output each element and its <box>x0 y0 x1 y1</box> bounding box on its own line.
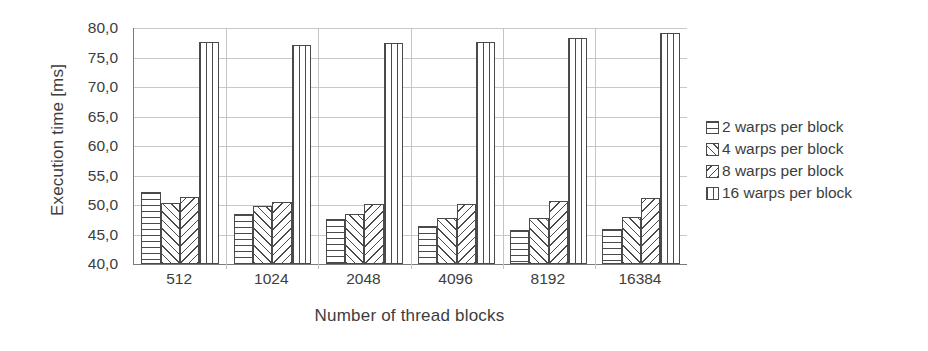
y-axis-tick-label: 80,0 <box>88 20 118 36</box>
bar[interactable] <box>602 229 621 264</box>
y-axis-tick-label: 55,0 <box>88 168 118 184</box>
bar[interactable] <box>326 219 345 264</box>
y-axis-tick-label: 75,0 <box>88 50 118 66</box>
bar-group <box>318 28 410 264</box>
legend-item[interactable]: 4 warps per block <box>706 138 916 160</box>
bar[interactable] <box>457 204 476 264</box>
bar-group <box>503 28 595 264</box>
bar-group <box>595 28 687 264</box>
x-axis-tick-label: 4096 <box>410 270 502 288</box>
bar[interactable] <box>510 230 529 264</box>
bar[interactable] <box>384 43 403 264</box>
bar-group-bars <box>602 28 679 264</box>
legend-swatch-icon <box>706 187 719 200</box>
bar[interactable] <box>568 38 587 264</box>
y-axis-tick-label: 50,0 <box>88 197 118 213</box>
bar-group-bars <box>418 28 495 264</box>
y-axis-tick-labels: 80,075,070,065,060,055,050,045,040,0 <box>60 28 126 264</box>
legend-item-label: 4 warps per block <box>722 140 843 158</box>
bar-group <box>411 28 503 264</box>
bar[interactable] <box>364 204 383 264</box>
bar[interactable] <box>418 226 437 264</box>
bar[interactable] <box>180 197 199 264</box>
bar-chart-figure: Execution time [ms] 80,075,070,065,060,0… <box>0 0 928 351</box>
x-axis-tick-label: 8192 <box>502 270 594 288</box>
legend-item[interactable]: 8 warps per block <box>706 160 916 182</box>
bar[interactable] <box>199 42 218 264</box>
plot-area <box>133 28 687 265</box>
y-axis-tick-label: 70,0 <box>88 79 118 95</box>
bar[interactable] <box>292 45 311 264</box>
x-axis-tick-label: 1024 <box>225 270 317 288</box>
bar[interactable] <box>345 214 364 264</box>
bar[interactable] <box>660 33 679 264</box>
bar[interactable] <box>161 203 180 264</box>
bar[interactable] <box>549 201 568 264</box>
bar[interactable] <box>437 218 456 264</box>
legend-swatch-icon <box>706 165 719 178</box>
legend-item-label: 8 warps per block <box>722 162 843 180</box>
bar[interactable] <box>253 206 272 264</box>
bar-groups <box>134 28 687 264</box>
bar[interactable] <box>622 217 641 264</box>
bar-group-bars <box>326 28 403 264</box>
legend-item[interactable]: 2 warps per block <box>706 116 916 138</box>
bar[interactable] <box>272 202 291 264</box>
bar-group <box>226 28 318 264</box>
y-axis-tick-label: 60,0 <box>88 138 118 154</box>
bar[interactable] <box>529 218 548 264</box>
legend-item-label: 2 warps per block <box>722 118 843 136</box>
x-axis-tick-labels: 512102420484096819216384 <box>133 270 686 288</box>
y-axis-tick-label: 45,0 <box>88 227 118 243</box>
chart-legend: 2 warps per block4 warps per block8 warp… <box>706 116 916 204</box>
y-axis-tick-label: 65,0 <box>88 109 118 125</box>
bar-group <box>134 28 226 264</box>
x-axis-title: Number of thread blocks <box>133 306 686 326</box>
legend-swatch-icon <box>706 121 719 134</box>
bar[interactable] <box>234 214 253 264</box>
x-axis-tick-label: 16384 <box>594 270 686 288</box>
bar-group-bars <box>234 28 311 264</box>
bar[interactable] <box>641 198 660 264</box>
bar[interactable] <box>476 42 495 264</box>
legend-item[interactable]: 16 warps per block <box>706 182 916 204</box>
bar-group-bars <box>141 28 218 264</box>
legend-swatch-icon <box>706 143 719 156</box>
x-axis-tick-label: 2048 <box>317 270 409 288</box>
bar[interactable] <box>141 192 160 264</box>
bar-group-bars <box>510 28 587 264</box>
x-axis-tick-label: 512 <box>133 270 225 288</box>
legend-item-label: 16 warps per block <box>722 184 852 202</box>
y-axis-tick-label: 40,0 <box>88 256 118 272</box>
